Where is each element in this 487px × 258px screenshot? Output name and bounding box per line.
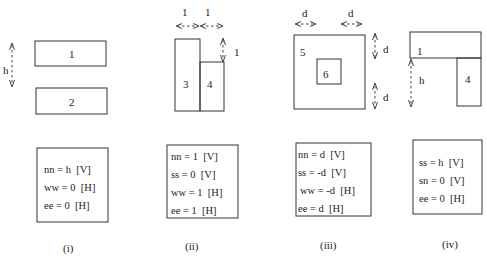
panel-label: (ii) — [185, 240, 199, 253]
block-1-label: 1 — [69, 48, 75, 60]
block-6-label: 6 — [323, 68, 329, 80]
constraint-line: nn = d [V] — [298, 149, 345, 160]
panel-iv: 1 4 h ss = h [V] sn = 0 [V] ee = 0 [H] (… — [409, 32, 483, 251]
horizontal-dimension-arrow — [295, 22, 316, 27]
dimension-label: d — [383, 43, 389, 55]
dimension-label: 1 — [234, 46, 240, 58]
constraint-line: ss = h [V] — [419, 157, 463, 168]
dimension-label-h: h — [3, 64, 9, 76]
horizontal-dimension-arrow — [176, 24, 199, 29]
constraint-line: nn = 1 [V] — [171, 151, 218, 162]
constraint-line: ee = 0 [H] — [44, 200, 90, 211]
constraint-line: ee = 0 [H] — [419, 193, 465, 204]
panel-label: (iv) — [442, 238, 458, 251]
constraint-line: ss = 0 [V] — [171, 169, 215, 180]
block-5-label: 5 — [300, 46, 306, 58]
block-1-label: 1 — [417, 45, 423, 57]
constraint-line: ww = -d [H] — [300, 185, 355, 196]
panel-label: (iii) — [320, 239, 337, 252]
constraint-line: ee = d [H] — [298, 203, 344, 214]
dimension-label: 1 — [182, 6, 188, 18]
vertical-dimension-arrow — [409, 59, 414, 107]
dimension-label: d — [302, 7, 308, 19]
constraint-line: ww = 0 [H] — [44, 182, 95, 193]
panel-iii: 5 6 d d d d nn = d [V] ss = -d [V] — [294, 7, 389, 252]
panel-ii: 3 4 1 1 1 nn = 1 [V] ss = 0 [V] ww = 1 [… — [167, 6, 240, 253]
block-4-label: 4 — [465, 73, 471, 85]
block-2-label: 2 — [69, 96, 75, 108]
constraint-line: sn = 0 [V] — [419, 175, 465, 186]
panel-label: (i) — [63, 242, 74, 255]
constraint-line: ww = 1 [H] — [171, 187, 222, 198]
block-3 — [175, 39, 200, 111]
horizontal-dimension-arrow — [341, 22, 362, 27]
horizontal-dimension-arrow — [200, 24, 223, 29]
constraint-line: ee = 1 [H] — [171, 205, 217, 216]
vertical-dimension-arrow — [10, 43, 15, 87]
block-4-label: 4 — [207, 78, 213, 90]
vertical-dimension-arrow — [373, 83, 378, 109]
vertical-dimension-arrow — [373, 33, 378, 59]
dimension-label: 1 — [205, 6, 211, 18]
vertical-dimension-arrow — [221, 38, 226, 62]
dimension-label: d — [383, 91, 389, 103]
diagram-canvas: 1 2 h nn = h [V] ww = 0 [H] ee = 0 [H] (… — [0, 0, 487, 258]
dimension-label-h: h — [419, 74, 425, 86]
panel-i: 1 2 h nn = h [V] ww = 0 [H] ee = 0 [H] (… — [3, 41, 108, 255]
constraint-line: nn = h [V] — [44, 164, 91, 175]
constraint-line: ss = -d [V] — [298, 167, 346, 178]
dimension-label: d — [348, 7, 354, 19]
block-3-label: 3 — [183, 78, 189, 90]
block-6 — [317, 59, 341, 84]
